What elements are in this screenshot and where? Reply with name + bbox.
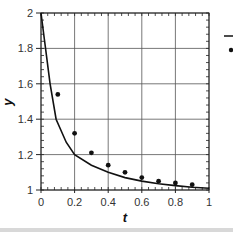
- chart: 00.20.40.60.81 11.21.41.61.82 t y: [0, 0, 233, 232]
- x-tick-label: 0.6: [134, 196, 149, 208]
- data-point: [72, 131, 77, 136]
- data-point: [123, 170, 128, 175]
- data-point: [89, 150, 94, 155]
- curve-line: [41, 13, 209, 188]
- data-point: [173, 181, 178, 186]
- x-tick-label: 0.2: [67, 196, 82, 208]
- y-tick-label: 1.8: [18, 42, 33, 54]
- legend: [224, 36, 233, 52]
- bottom-divider: [0, 228, 233, 232]
- axis-ticks: [36, 13, 209, 193]
- scatter-points: [55, 92, 194, 187]
- y-tick-label: 1.4: [18, 113, 33, 125]
- plot-frame: [41, 13, 209, 190]
- x-tick-label: 0: [38, 196, 44, 208]
- data-point: [106, 163, 111, 168]
- grid-lines: [41, 13, 209, 190]
- y-axis-label: y: [0, 98, 15, 107]
- x-tick-label: 1: [206, 196, 212, 208]
- x-tick-label: 0.8: [168, 196, 183, 208]
- y-tick-label: 1.6: [18, 78, 33, 90]
- y-tick-labels: 11.21.41.61.82: [18, 7, 33, 196]
- x-tick-labels: 00.20.40.60.81: [38, 196, 212, 208]
- x-axis-label: t: [123, 210, 128, 225]
- data-point: [190, 182, 195, 187]
- data-point: [55, 92, 60, 97]
- y-tick-label: 1.2: [18, 149, 33, 161]
- legend-dot-icon: [229, 48, 233, 52]
- data-point: [156, 179, 161, 184]
- y-tick-label: 2: [27, 7, 33, 19]
- x-tick-label: 0.4: [101, 196, 116, 208]
- y-tick-label: 1: [27, 184, 33, 196]
- data-point: [139, 175, 144, 180]
